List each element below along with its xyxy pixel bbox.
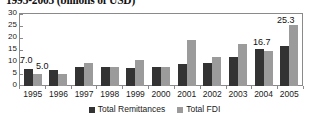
value-label-1995-remittances: 7.0 — [20, 56, 33, 65]
x-axis-label: 1995 — [20, 88, 46, 100]
bar — [212, 57, 221, 86]
x-axis: 1995199619971998199920002001200220032004… — [20, 88, 302, 100]
bar — [264, 51, 273, 86]
x-axis-label: 1997 — [71, 88, 97, 100]
value-label-1995-fdi: 5.0 — [36, 62, 49, 71]
bar — [161, 67, 170, 86]
y-axis-label: 5 — [13, 69, 17, 77]
bar — [178, 64, 187, 86]
bar — [289, 25, 298, 86]
legend-label: Total Remittances — [98, 105, 166, 114]
legend-item[interactable]: Total FDI — [177, 105, 220, 114]
y-axis-label: 0 — [13, 81, 17, 89]
chart-legend: Total RemittancesTotal FDI — [0, 105, 309, 114]
bar-group — [71, 14, 97, 86]
y-axis-label: 25 — [8, 21, 17, 29]
y-axis-label: 30 — [8, 9, 17, 17]
bar-group — [251, 14, 277, 86]
bar — [58, 74, 67, 86]
y-axis: 30 25 20 15 10 5 0 — [0, 13, 17, 86]
bar-group — [97, 14, 123, 86]
legend-label: Total FDI — [186, 105, 220, 114]
bar-group — [174, 14, 200, 86]
bar — [75, 67, 84, 86]
x-axis-label: 2000 — [148, 88, 174, 100]
bar-group — [46, 14, 72, 86]
bar — [84, 63, 93, 86]
x-tick-mark — [303, 86, 304, 89]
bar — [238, 44, 247, 86]
x-axis-label: 2001 — [174, 88, 200, 100]
x-axis-label: 2003 — [225, 88, 251, 100]
bar-group — [225, 14, 251, 86]
legend-swatch-icon — [89, 107, 95, 113]
x-axis-label: 1998 — [97, 88, 123, 100]
bar-series-group — [20, 14, 302, 86]
bar — [24, 69, 33, 86]
bar-group — [123, 14, 149, 86]
bar — [203, 63, 212, 86]
y-axis-label: 15 — [8, 45, 17, 53]
bar — [126, 68, 135, 86]
y-axis-label: 10 — [8, 57, 17, 65]
bar-group — [148, 14, 174, 86]
bar-group — [20, 14, 46, 86]
chart-title: 1995-2005 (billions of USD) — [6, 0, 135, 6]
bar — [33, 74, 42, 86]
bar — [110, 67, 119, 86]
legend-swatch-icon — [177, 107, 183, 113]
chart-container: 1995-2005 (billions of USD) 30 25 20 15 … — [0, 0, 309, 122]
value-label-2005-remittances: 16.7 — [253, 38, 271, 47]
bar — [255, 49, 264, 86]
bar — [280, 46, 289, 86]
x-axis-label: 2004 — [251, 88, 277, 100]
bar-group — [199, 14, 225, 86]
bar — [49, 70, 58, 86]
bar — [187, 40, 196, 86]
x-axis-label: 2005 — [276, 88, 302, 100]
bar — [101, 67, 110, 86]
bar — [229, 57, 238, 86]
x-axis-label: 2002 — [199, 88, 225, 100]
x-axis-label: 1996 — [46, 88, 72, 100]
x-axis-label: 1999 — [123, 88, 149, 100]
value-label-2005-fdi: 25.3 — [277, 16, 295, 25]
bar — [135, 60, 144, 86]
bar — [152, 67, 161, 86]
legend-item[interactable]: Total Remittances — [89, 105, 166, 114]
y-axis-label: 20 — [8, 33, 17, 41]
